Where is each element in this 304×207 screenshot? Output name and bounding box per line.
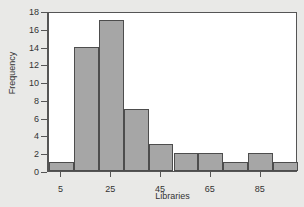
- y-axis-tick: [41, 83, 47, 84]
- y-axis-tick: [41, 172, 47, 173]
- y-axis-tick: [41, 48, 47, 49]
- histogram-bar: [198, 153, 223, 171]
- histogram-bar: [273, 162, 298, 171]
- y-axis-tick-label: 6: [1, 115, 39, 124]
- y-axis-tick: [41, 119, 47, 120]
- y-axis-tick-label-wrap: 12: [0, 65, 39, 66]
- y-axis-tick-label-wrap: 10: [0, 83, 39, 84]
- histogram-bar: [174, 153, 199, 171]
- histogram-bar: [248, 153, 273, 171]
- histogram-bar: [74, 47, 99, 171]
- y-axis-tick-label: 0: [1, 168, 39, 177]
- x-axis-tick: [210, 172, 211, 177]
- y-axis-title: Frequency: [7, 33, 17, 113]
- plot-area: [48, 12, 297, 172]
- y-axis-tick: [41, 30, 47, 31]
- x-axis-tick: [260, 172, 261, 177]
- histogram-bar: [99, 20, 124, 171]
- y-axis-tick-label-wrap: 2: [0, 154, 39, 155]
- histogram-bar: [223, 162, 248, 171]
- y-axis-tick-label: 18: [1, 8, 39, 17]
- y-axis-tick-label-wrap: 18: [0, 12, 39, 13]
- histogram-bar: [149, 144, 174, 171]
- y-axis-tick-label: 4: [1, 132, 39, 141]
- y-axis-tick: [41, 65, 47, 66]
- x-axis-title: Libraries: [48, 191, 297, 201]
- y-axis-tick-label-wrap: 6: [0, 119, 39, 120]
- y-axis-tick-label: 2: [1, 150, 39, 159]
- histogram-bar: [49, 162, 74, 171]
- y-axis-line: [47, 12, 48, 172]
- y-axis-tick: [41, 154, 47, 155]
- x-axis-tick: [160, 172, 161, 177]
- y-axis-tick: [41, 12, 47, 13]
- bars-layer: [49, 13, 296, 171]
- y-axis-tick-label-wrap: 16: [0, 30, 39, 31]
- y-axis-tick-label-wrap: 4: [0, 136, 39, 137]
- histogram-figure: 024681012141618 525456585 Frequency Libr…: [0, 0, 304, 207]
- x-axis-tick: [60, 172, 61, 177]
- y-axis-tick-label-wrap: 14: [0, 48, 39, 49]
- y-axis-tick-label-wrap: 0: [0, 172, 39, 173]
- y-axis-tick: [41, 101, 47, 102]
- y-axis-tick-label-wrap: 8: [0, 101, 39, 102]
- x-axis-tick: [110, 172, 111, 177]
- y-axis-tick: [41, 136, 47, 137]
- histogram-bar: [124, 109, 149, 171]
